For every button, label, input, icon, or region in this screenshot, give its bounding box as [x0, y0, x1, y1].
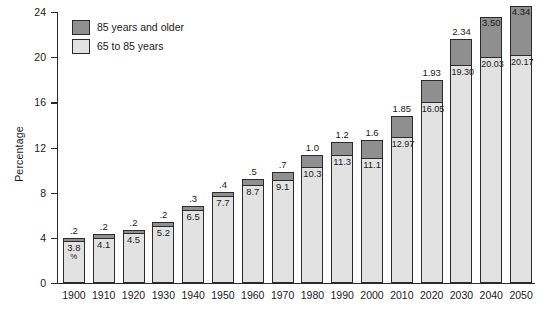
bar-value-label-older: 3.50	[481, 18, 501, 28]
bar-segment-young[interactable]: 9.1	[273, 181, 293, 282]
bar-segment-older[interactable]	[362, 141, 382, 159]
bar-group[interactable]: 10.31.0	[301, 155, 323, 283]
bar-stack[interactable]: 5.2	[152, 222, 174, 283]
bar-stack[interactable]: 8.7	[242, 179, 264, 283]
bar-segment-older[interactable]	[392, 117, 412, 138]
bar-value-label-older: .2	[146, 210, 180, 220]
bar-segment-young[interactable]: 7.7	[213, 197, 233, 282]
bar-segment-older[interactable]: 4.34	[511, 7, 531, 56]
bar-segment-young[interactable]: 8.7	[243, 186, 263, 282]
x-tick-label: 2050	[504, 289, 538, 301]
bar-segment-young[interactable]: 4.1	[94, 239, 114, 282]
plot-area: 3.8%.24.1.24.5.25.2.26.5.37.7.48.7.59.1.…	[58, 12, 535, 283]
bar-value-label-older: .3	[176, 194, 210, 204]
y-tick-label: 0	[20, 278, 46, 288]
bar-segment-young[interactable]: 5.2	[153, 227, 173, 282]
bar-segment-young[interactable]: 10.3	[302, 168, 322, 282]
bar-segment-older[interactable]	[332, 143, 352, 157]
bar-stack[interactable]: 16.05	[421, 80, 443, 283]
bar-group[interactable]: 3.5020.03	[480, 17, 502, 283]
bar-value-label-young: 19.30	[451, 67, 471, 77]
bar-value-label-young: 10.3	[302, 169, 322, 179]
bar-group[interactable]: 7.7.4	[212, 192, 234, 283]
bar-segment-young[interactable]: 11.1	[362, 159, 382, 282]
bar-value-label-young: 16.05	[422, 104, 442, 114]
y-tick-mark	[51, 193, 58, 194]
bar-group[interactable]: 5.2.2	[152, 222, 174, 283]
bar-stack[interactable]: 7.7	[212, 192, 234, 283]
y-tick-group: 4	[0, 233, 58, 243]
bar-segment-older[interactable]	[451, 40, 471, 66]
y-tick-label: 24	[20, 7, 46, 17]
bar-value-label-older: 4.34	[511, 7, 531, 17]
bar-group[interactable]: 3.8%.2	[63, 238, 85, 283]
bar-segment-young[interactable]: 16.05	[422, 103, 442, 282]
bar-group[interactable]: 12.971.85	[391, 116, 413, 283]
bar-segment-young[interactable]: 12.97	[392, 138, 412, 282]
bar-stack[interactable]: 6.5	[182, 206, 204, 283]
y-tick-mark	[51, 238, 58, 239]
bar-stack[interactable]: 3.8%	[63, 238, 85, 283]
x-axis-labels: 1900191019201930194019501960197019801990…	[58, 289, 535, 305]
bar-stack[interactable]: 9.1	[272, 172, 294, 283]
bar-value-label-young: 20.17	[511, 57, 531, 67]
bar-value-label-young: 7.7	[213, 198, 233, 208]
bar-stack[interactable]: 19.30	[450, 39, 472, 283]
bar-stack[interactable]: 3.5020.03	[480, 17, 502, 283]
bar-group[interactable]: 11.11.6	[361, 140, 383, 283]
percent-symbol-annotation: %	[64, 253, 84, 261]
bar-value-label-older: 1.6	[355, 128, 389, 138]
y-tick-group: 20	[0, 52, 58, 62]
bar-value-label-older: 2.34	[444, 27, 478, 37]
y-tick-mark	[51, 148, 58, 149]
y-tick-group: 0	[0, 278, 58, 288]
y-tick-group: 24	[0, 7, 58, 17]
bar-stack[interactable]: 4.5	[123, 230, 145, 283]
bar-stack[interactable]: 10.3	[301, 155, 323, 283]
bar-stack[interactable]: 4.3420.17	[510, 6, 532, 283]
bar-value-label-older: 1.0	[295, 143, 329, 153]
bar-segment-young[interactable]: 3.8%	[64, 242, 84, 282]
bar-segment-young[interactable]: 11.3	[332, 156, 352, 282]
bar-group[interactable]: 4.3420.17	[510, 6, 532, 283]
bar-group[interactable]: 11.31.2	[331, 142, 353, 283]
bar-value-label-young: 4.5	[124, 235, 144, 245]
y-tick-label: 16	[20, 97, 46, 107]
bar-value-label-young: 9.1	[273, 182, 293, 192]
bar-segment-older[interactable]	[422, 81, 442, 103]
bar-segment-older[interactable]	[302, 156, 322, 167]
bar-segment-young[interactable]: 4.5	[124, 234, 144, 282]
bar-value-label-young: 12.97	[392, 139, 412, 149]
bar-segment-older[interactable]	[273, 173, 293, 181]
stacked-bar-chart: Percentage 04812162024 85 years and olde…	[0, 0, 542, 315]
bar-stack[interactable]: 11.1	[361, 140, 383, 283]
bar-group[interactable]: 6.5.3	[182, 206, 204, 283]
bar-stack[interactable]: 12.97	[391, 116, 413, 283]
bar-value-label-young: 8.7	[243, 187, 263, 197]
bar-stack[interactable]: 4.1	[93, 234, 115, 283]
bar-group[interactable]: 4.1.2	[93, 234, 115, 283]
y-axis-title: Percentage	[13, 114, 25, 194]
y-tick-mark	[51, 102, 58, 103]
bar-group[interactable]: 19.302.34	[450, 39, 472, 283]
y-tick-group: 8	[0, 188, 58, 198]
bar-group[interactable]: 9.1.7	[272, 172, 294, 283]
bar-segment-young[interactable]: 6.5	[183, 211, 203, 282]
bar-value-label-young: 20.03	[481, 59, 501, 69]
y-tick-mark	[51, 12, 58, 13]
y-tick-label: 12	[20, 143, 46, 153]
bar-group[interactable]: 16.051.93	[421, 80, 443, 283]
bar-group[interactable]: 4.5.2	[123, 230, 145, 283]
y-tick-group: 12	[0, 143, 58, 153]
bar-stack[interactable]: 11.3	[331, 142, 353, 283]
bar-segment-older[interactable]: 3.50	[481, 18, 501, 58]
y-tick-label: 8	[20, 188, 46, 198]
x-axis-line	[57, 283, 535, 284]
bar-value-label-young: 11.1	[362, 160, 382, 170]
bar-segment-young[interactable]: 20.03	[481, 58, 501, 282]
bar-segment-young[interactable]: 20.17	[511, 56, 531, 282]
bar-segment-young[interactable]: 19.30	[451, 66, 471, 282]
bar-group[interactable]: 8.7.5	[242, 179, 264, 283]
bar-value-label-young: 11.3	[332, 157, 352, 167]
y-tick-group: 16	[0, 97, 58, 107]
